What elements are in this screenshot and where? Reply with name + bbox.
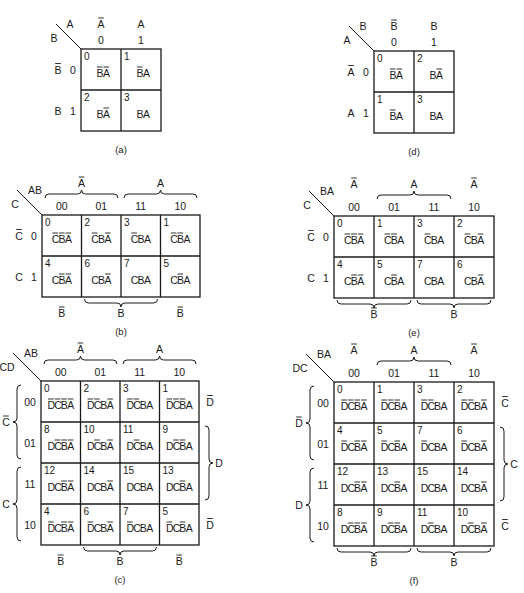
map-e: BAC0001111001AAACCBB0CBA1CBA3CBA2CBA4CBA… bbox=[303, 178, 494, 338]
minterm-literal: A bbox=[146, 440, 153, 452]
map-cell: 9DCBA bbox=[163, 424, 193, 452]
map-f: BADC0001111000011110AAADDCCCBB0DCBA1DCBA… bbox=[292, 344, 518, 586]
cell-index: 5 bbox=[377, 425, 383, 436]
cell-index: 0 bbox=[337, 384, 343, 395]
bottom-variable-label-text: B bbox=[116, 555, 123, 567]
corner-column-variables: AB bbox=[24, 347, 38, 359]
cell-index: 13 bbox=[163, 465, 175, 476]
corner-row-variables: CD bbox=[0, 361, 15, 373]
cell-index: 0 bbox=[45, 217, 51, 228]
cell-minterm: CBA bbox=[464, 234, 484, 246]
right-variable-label: D bbox=[206, 396, 214, 408]
cell-minterm: BA bbox=[429, 69, 443, 81]
map-caption-text: (c) bbox=[114, 574, 125, 585]
row-variable-label: C bbox=[307, 272, 315, 284]
cell-index: 6 bbox=[457, 259, 463, 270]
column-code-text: 01 bbox=[388, 367, 400, 379]
row-variable-label-text: B bbox=[54, 105, 61, 117]
corner-column-variables-text: BA bbox=[320, 185, 334, 197]
minterm-literal: A bbox=[67, 399, 74, 411]
cell-minterm: DCBA bbox=[87, 440, 114, 452]
map-cell: 5CBA bbox=[164, 258, 191, 286]
column-code: 11 bbox=[134, 366, 145, 378]
row-code: 10 bbox=[24, 519, 36, 531]
row-group-brace bbox=[306, 386, 314, 460]
map-caption-text: (e) bbox=[408, 327, 420, 338]
bottom-variable-label-text: B bbox=[117, 307, 124, 319]
map-cell: 14DCBA bbox=[84, 465, 114, 493]
minterm-literal: A bbox=[361, 441, 368, 453]
row-code: 0 bbox=[31, 230, 37, 242]
column-code: 1 bbox=[138, 34, 144, 46]
minterm-literal: A bbox=[146, 522, 153, 534]
minterm-literal: A bbox=[477, 275, 484, 287]
corner-row-variables-text: C bbox=[303, 199, 311, 211]
map-cell: 13DCBA bbox=[163, 465, 193, 493]
map-cell: 6DCBA bbox=[457, 425, 488, 453]
minterm-literal: A bbox=[481, 441, 488, 453]
column-variable-label-text: A bbox=[410, 344, 417, 356]
minterm-literal: A bbox=[441, 441, 448, 453]
minterm-literal: A bbox=[103, 67, 110, 79]
column-group-brace bbox=[377, 191, 451, 199]
map-cell: 4DCBA bbox=[44, 506, 74, 534]
cell-index: 14 bbox=[457, 466, 469, 477]
map-cell: 0DCBA bbox=[44, 383, 74, 411]
row-code: 1 bbox=[323, 272, 329, 284]
map-cell: 7DCBA bbox=[123, 506, 153, 534]
cell-index: 9 bbox=[377, 507, 383, 518]
cell-minterm: DCBA bbox=[341, 523, 368, 535]
column-variable-label-text: A bbox=[78, 177, 85, 189]
row-variable-label: A bbox=[347, 66, 354, 78]
column-variable-label: A bbox=[78, 177, 85, 189]
map-cell: 13DCBA bbox=[377, 466, 408, 494]
map-cell: 10DCBA bbox=[84, 424, 114, 452]
map-cell: 15DCBA bbox=[417, 466, 448, 494]
row-code-text: 0 bbox=[323, 231, 329, 243]
column-code-text: 01 bbox=[388, 201, 400, 213]
row-code: 0 bbox=[323, 231, 329, 243]
corner-column-variables: BA bbox=[317, 348, 331, 360]
corner-column-variables: B bbox=[359, 20, 366, 32]
bottom-variable-label-text: B bbox=[370, 556, 377, 568]
cell-minterm: DCBA bbox=[461, 400, 488, 412]
cell-minterm: DCBA bbox=[87, 399, 114, 411]
column-group-brace bbox=[123, 356, 196, 364]
column-variable-label-text: A bbox=[350, 178, 357, 190]
cell-index: 0 bbox=[337, 218, 343, 229]
row-variable-label-text: D bbox=[295, 417, 303, 429]
corner-row-variables-text: B bbox=[50, 32, 57, 44]
minterm-literal: A bbox=[441, 523, 448, 535]
cell-index: 3 bbox=[123, 383, 129, 394]
minterm-literal: A bbox=[67, 440, 74, 452]
minterm-literal: A bbox=[107, 440, 114, 452]
column-code-text: 0 bbox=[98, 34, 104, 46]
column-code-text: 00 bbox=[56, 200, 68, 212]
bottom-variable-label: B bbox=[177, 307, 184, 319]
minterm-literal: A bbox=[105, 233, 112, 245]
cell-index: 7 bbox=[124, 258, 130, 269]
cell-minterm: DCBA bbox=[166, 399, 193, 411]
map-caption: (f) bbox=[410, 575, 419, 586]
bottom-group-brace bbox=[85, 299, 158, 307]
cell-minterm: BA bbox=[96, 67, 110, 79]
column-variable-label: A bbox=[156, 343, 163, 355]
cell-minterm: BA bbox=[389, 110, 403, 122]
cell-index: 2 bbox=[84, 92, 90, 103]
column-code-text: 10 bbox=[174, 200, 186, 212]
cell-index: 6 bbox=[84, 506, 90, 517]
minterm-literal: A bbox=[65, 233, 72, 245]
row-variable-label-text: C bbox=[15, 271, 23, 283]
column-code: 10 bbox=[468, 367, 480, 379]
minterm-literal: A bbox=[144, 274, 151, 286]
cell-index: 4 bbox=[45, 258, 51, 269]
cell-index: 11 bbox=[417, 507, 428, 518]
bottom-variable-label: B bbox=[57, 555, 64, 567]
cell-index: 15 bbox=[123, 465, 135, 476]
row-group-brace bbox=[13, 385, 21, 459]
cell-index: 1 bbox=[163, 383, 169, 394]
bottom-variable-label: B bbox=[450, 308, 457, 320]
cell-index: 4 bbox=[44, 506, 50, 517]
cell-minterm: DCBA bbox=[166, 440, 193, 452]
row-code-text: 1 bbox=[363, 107, 369, 119]
